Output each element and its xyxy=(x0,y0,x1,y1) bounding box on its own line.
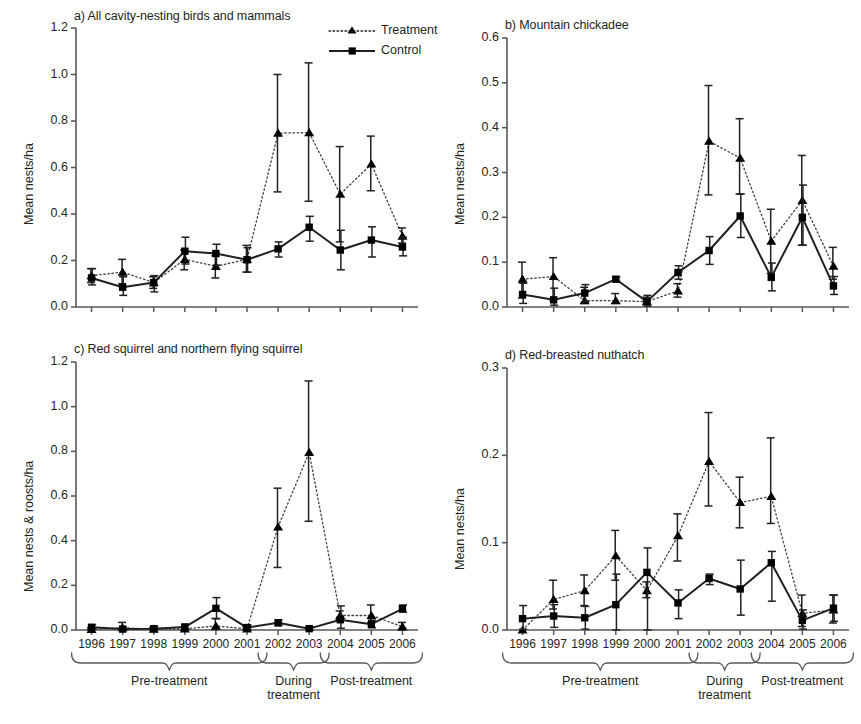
treatment-data-point-triangle[interactable] xyxy=(366,159,376,167)
y-axis-tick-label: 0.6 xyxy=(26,488,68,502)
treatment-data-point-triangle[interactable] xyxy=(766,492,776,500)
control-data-point-square[interactable] xyxy=(830,604,837,611)
control-data-point-square[interactable] xyxy=(181,248,188,255)
control-data-point-square[interactable] xyxy=(119,284,126,291)
period-bracket-label: Post-treatment xyxy=(722,674,861,688)
control-data-point-square[interactable] xyxy=(830,282,837,289)
panel-d-title: d) Red-breasted nuthatch xyxy=(505,348,644,362)
y-axis-tick-label: 0.3 xyxy=(457,165,499,179)
period-bracket xyxy=(72,653,267,670)
control-data-point-square[interactable] xyxy=(519,291,526,298)
control-data-point-square[interactable] xyxy=(643,569,650,576)
control-data-point-square[interactable] xyxy=(768,559,775,566)
control-data-point-square[interactable] xyxy=(150,625,157,632)
panel-a-title: a) All cavity-nesting birds and mammals xyxy=(74,9,290,23)
treatment-data-point-triangle[interactable] xyxy=(304,448,314,456)
panel-b-title: b) Mountain chickadee xyxy=(505,18,629,32)
treatment-data-point-triangle[interactable] xyxy=(580,586,590,594)
control-data-point-square[interactable] xyxy=(337,616,344,623)
control-data-point-square[interactable] xyxy=(212,605,219,612)
treatment-data-point-triangle[interactable] xyxy=(611,551,621,559)
control-data-point-square[interactable] xyxy=(368,236,375,243)
period-bracket xyxy=(320,653,422,670)
panel-c-title: c) Red squirrel and northern flying squi… xyxy=(74,342,302,356)
figure-panel-grid: a) All cavity-nesting birds and mammals … xyxy=(0,0,861,724)
control-data-point-square[interactable] xyxy=(581,614,588,621)
treatment-data-point-triangle[interactable] xyxy=(704,457,714,465)
period-bracket xyxy=(689,653,760,670)
control-data-point-square[interactable] xyxy=(305,625,312,632)
control-data-point-square[interactable] xyxy=(550,612,557,619)
control-data-point-square[interactable] xyxy=(88,274,95,281)
y-axis-tick-label: 1.2 xyxy=(26,20,68,34)
treatment-data-point-triangle[interactable] xyxy=(766,236,776,244)
y-axis-tick-label: 0.4 xyxy=(26,533,68,547)
control-data-point-square[interactable] xyxy=(550,296,557,303)
legend-label-treatment: Treatment xyxy=(381,23,438,37)
y-axis-tick-label: 0.2 xyxy=(457,447,499,461)
control-data-point-square[interactable] xyxy=(674,269,681,276)
treatment-data-point-triangle[interactable] xyxy=(273,522,283,530)
legend-treatment-sample xyxy=(329,26,375,33)
control-data-point-square[interactable] xyxy=(799,617,806,624)
y-axis-tick-label: 0.4 xyxy=(26,206,68,220)
period-bracket xyxy=(503,653,698,670)
treatment-data-point-triangle[interactable] xyxy=(366,611,376,619)
treatment-data-point-triangle[interactable] xyxy=(704,137,714,145)
panel-c-y-axis-label: Mean nests & roosts/ha xyxy=(22,461,36,592)
y-axis-tick-label: 0.0 xyxy=(26,622,68,636)
control-data-point-square[interactable] xyxy=(705,247,712,254)
treatment-data-point-triangle[interactable] xyxy=(673,286,683,294)
control-data-point-square[interactable] xyxy=(399,243,406,250)
y-axis-tick-label: 0.8 xyxy=(26,113,68,127)
control-data-point-square[interactable] xyxy=(399,605,406,612)
control-data-point-square[interactable] xyxy=(368,620,375,627)
panel-d-y-axis-label: Mean nests/ha xyxy=(453,488,467,570)
control-data-point-square[interactable] xyxy=(736,585,743,592)
control-data-point-square[interactable] xyxy=(612,601,619,608)
control-data-point-square[interactable] xyxy=(736,212,743,219)
treatment-data-point-triangle[interactable] xyxy=(735,498,745,506)
treatment-data-point-triangle[interactable] xyxy=(828,262,838,270)
control-data-point-square[interactable] xyxy=(305,224,312,231)
control-data-point-square[interactable] xyxy=(768,274,775,281)
y-axis-tick-label: 0.6 xyxy=(26,160,68,174)
y-axis-tick-label: 1.0 xyxy=(26,399,68,413)
treatment-data-point-triangle[interactable] xyxy=(549,595,559,603)
control-data-point-square[interactable] xyxy=(581,289,588,296)
control-data-point-square[interactable] xyxy=(674,599,681,606)
control-data-point-square[interactable] xyxy=(150,279,157,286)
control-data-point-square[interactable] xyxy=(519,615,526,622)
control-data-point-square[interactable] xyxy=(274,619,281,626)
treatment-data-point-triangle[interactable] xyxy=(118,268,128,276)
y-axis-tick-label: 0.5 xyxy=(457,75,499,89)
y-axis-tick-label: 0.4 xyxy=(457,120,499,134)
y-axis-tick-label: 0.3 xyxy=(457,360,499,374)
control-data-point-square[interactable] xyxy=(119,625,126,632)
treatment-data-point-triangle[interactable] xyxy=(735,154,745,162)
control-data-point-square[interactable] xyxy=(799,214,806,221)
control-data-point-square[interactable] xyxy=(243,256,250,263)
control-data-point-square[interactable] xyxy=(212,250,219,257)
treatment-data-point-triangle[interactable] xyxy=(673,531,683,539)
treatment-data-point-triangle[interactable] xyxy=(549,272,559,280)
legend-control-sample xyxy=(329,47,375,54)
control-data-point-square[interactable] xyxy=(612,276,619,283)
control-data-point-square[interactable] xyxy=(243,624,250,631)
x-axis-year-label: 2006 xyxy=(382,637,422,651)
treatment-data-point-triangle[interactable] xyxy=(211,621,221,629)
control-data-point-square[interactable] xyxy=(643,298,650,305)
error-bar xyxy=(767,438,775,524)
legend-label-control: Control xyxy=(381,43,421,57)
triangle-marker xyxy=(348,26,357,33)
legend-sample-lines xyxy=(329,20,389,66)
x-axis-year-label: 2006 xyxy=(813,637,853,651)
control-data-point-square[interactable] xyxy=(181,623,188,630)
control-data-point-square[interactable] xyxy=(88,624,95,631)
control-data-point-square[interactable] xyxy=(274,245,281,252)
error-bar xyxy=(644,548,652,630)
period-bracket-label-line2: treatment xyxy=(645,688,805,702)
treatment-data-point-triangle[interactable] xyxy=(397,622,407,630)
control-data-point-square[interactable] xyxy=(337,246,344,253)
control-data-point-square[interactable] xyxy=(705,575,712,582)
